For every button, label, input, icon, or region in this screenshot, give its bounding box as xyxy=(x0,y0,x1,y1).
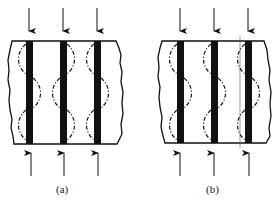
panel-label-b: (b) xyxy=(206,183,219,196)
fiber-bar xyxy=(177,41,184,143)
diagram-canvas: (a) (b) xyxy=(0,0,278,201)
fiber-bar xyxy=(245,41,252,143)
fiber-bar xyxy=(94,41,101,144)
panel-a: (a) xyxy=(8,8,123,196)
fiber-bar xyxy=(211,41,218,143)
fiber-bar xyxy=(26,41,33,144)
panel-b: (b) xyxy=(158,8,271,196)
panel-label-a: (a) xyxy=(56,183,69,196)
fiber-bar xyxy=(60,41,67,144)
